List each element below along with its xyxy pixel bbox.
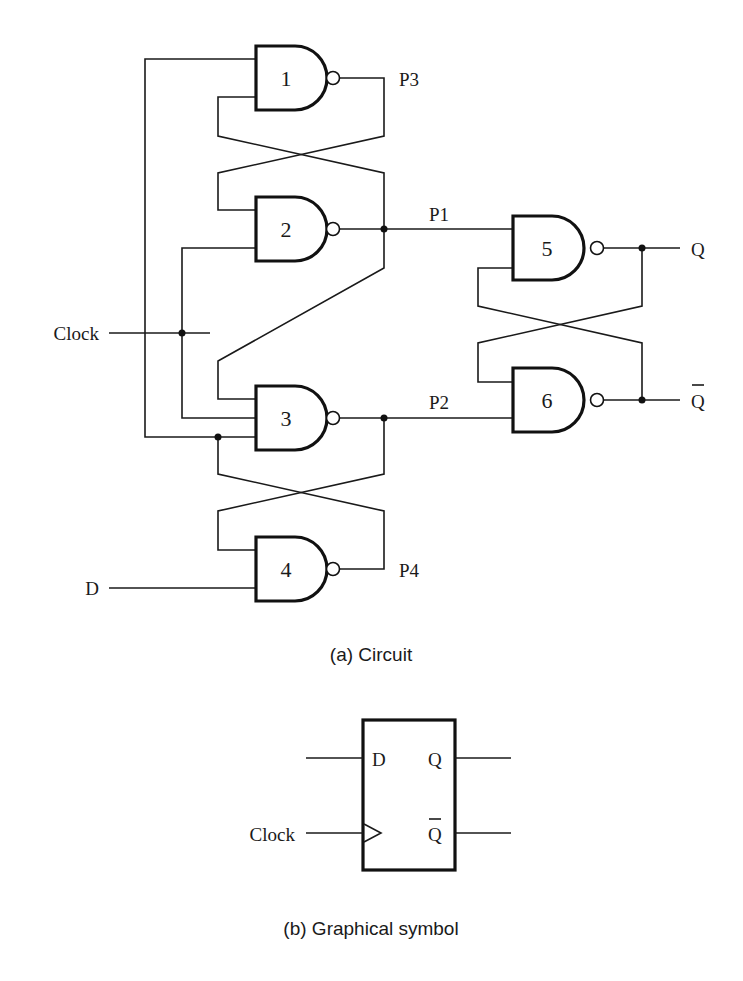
p1-junction-dot (381, 226, 388, 233)
p1-label: P1 (429, 204, 449, 225)
symbol-d-label: D (372, 749, 386, 770)
d-input-label: D (85, 578, 99, 599)
symbol-q-label: Q (428, 749, 442, 770)
gate-6-label: 6 (542, 388, 553, 413)
p3-label: P3 (399, 69, 419, 90)
q-output-label: Q (691, 239, 705, 260)
p4-label: P4 (399, 560, 420, 581)
d-flip-flop-figure: 1 2 3 4 5 6 Clock D P3 (0, 0, 743, 981)
wires (109, 59, 680, 588)
nand-gate-6: 6 (513, 368, 604, 432)
nand-gate-1: 1 (256, 46, 340, 110)
nand-gate-2: 2 (256, 197, 340, 261)
clock-input-label: Clock (54, 323, 100, 344)
p4-junction-dot (215, 434, 222, 441)
nand-gate-4: 4 (256, 537, 340, 601)
symbol-q-bar-label: Q (428, 824, 442, 845)
q-bar-junction-dot (639, 397, 646, 404)
gate-2-label: 2 (281, 217, 292, 242)
caption-a: (a) Circuit (330, 644, 413, 665)
gate-1-label: 1 (281, 66, 292, 91)
gate-4-label: 4 (281, 557, 292, 582)
gate-3-label: 3 (281, 406, 292, 431)
nand-gate-5: 5 (513, 216, 604, 280)
p2-label: P2 (429, 392, 449, 413)
nand-gate-3: 3 (256, 386, 340, 450)
q-junction-dot (639, 245, 646, 252)
q-bar-output: Q (691, 385, 705, 412)
circuit: 1 2 3 4 5 6 Clock D P3 (54, 46, 705, 665)
gate-5-label: 5 (542, 236, 553, 261)
q-bar-output-label: Q (691, 391, 705, 412)
p2-junction-dot (381, 415, 388, 422)
graphical-symbol: D Q Q Clock (b) Graphical symbol (250, 720, 511, 939)
flip-flop-box (363, 720, 455, 870)
caption-b: (b) Graphical symbol (283, 918, 458, 939)
clock-junction-dot (179, 330, 186, 337)
symbol-clock-label: Clock (250, 824, 296, 845)
